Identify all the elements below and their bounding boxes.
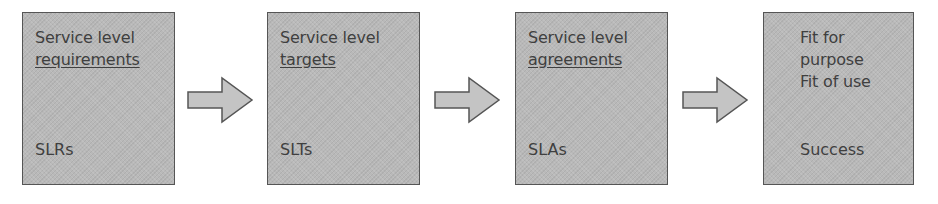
step-title-line1: Service level — [528, 27, 628, 49]
step-title: Fit for purpose Fit of use — [800, 27, 871, 93]
step-title-line2: targets — [280, 49, 380, 71]
step-abbreviation: SLRs — [35, 139, 74, 161]
step-title-line3: Fit of use — [800, 71, 871, 93]
step-title-line2: agreements — [528, 49, 628, 71]
step-title-line1: Service level — [280, 27, 380, 49]
step-abbreviation: SLTs — [280, 139, 312, 161]
step-box-slt: Service level targets SLTs — [267, 12, 420, 185]
step-title-line1: Fit for — [800, 27, 871, 49]
step-title: Service level requirements — [35, 27, 140, 71]
step-title-line2: requirements — [35, 49, 140, 71]
step-box-slr: Service level requirements SLRs — [22, 12, 175, 185]
step-title: Service level targets — [280, 27, 380, 71]
step-abbreviation: Success — [800, 139, 864, 161]
right-arrow-icon — [681, 76, 751, 126]
step-title-line1: Service level — [35, 27, 140, 49]
step-box-success: Fit for purpose Fit of use Success — [763, 12, 914, 185]
step-box-sla: Service level agreements SLAs — [515, 12, 668, 185]
step-abbreviation: SLAs — [528, 139, 567, 161]
right-arrow-icon — [186, 76, 256, 126]
right-arrow-icon — [433, 76, 503, 126]
step-title: Service level agreements — [528, 27, 628, 71]
step-title-line2: purpose — [800, 49, 871, 71]
